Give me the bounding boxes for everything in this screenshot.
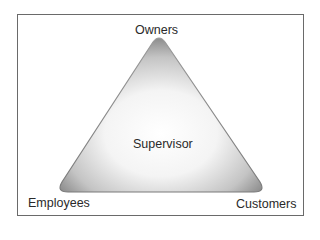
vertex-label-bottom-right: Customers (236, 198, 296, 211)
center-label: Supervisor (133, 138, 193, 151)
vertex-label-bottom-left: Employees (28, 197, 90, 210)
vertex-label-top: Owners (135, 24, 178, 37)
